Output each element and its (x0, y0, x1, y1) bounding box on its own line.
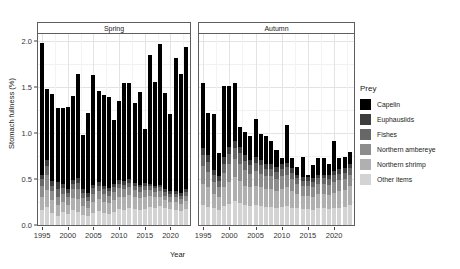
bar-segment (322, 158, 326, 175)
bar-stack (174, 58, 178, 225)
bar-segment (254, 186, 258, 205)
bar-segment (127, 83, 131, 179)
x-axis-tick-mark (282, 227, 283, 230)
bar-stack (348, 152, 352, 225)
bar-segment (81, 215, 85, 225)
bar-stack (56, 107, 60, 225)
bar-segment (280, 169, 284, 176)
x-axis-tick-label: 1995 (195, 231, 212, 240)
bar-segment (280, 176, 284, 189)
bar-segment (163, 208, 167, 225)
bar-segment (66, 197, 70, 204)
grid-line-minor (38, 64, 190, 65)
bar-segment (285, 167, 289, 174)
bar-segment (301, 186, 305, 195)
bar-segment (158, 44, 162, 184)
bar-segment (117, 197, 121, 210)
bar-segment (61, 194, 65, 202)
bar-segment (117, 209, 121, 225)
bar-segment (86, 113, 90, 193)
bar-stack (158, 44, 162, 225)
x-axis-title: Year (0, 250, 355, 259)
bar-segment (148, 196, 152, 207)
y-axis-tick-label: 0.5 (22, 175, 32, 184)
legend: Prey CapelinEuphausiidsFishesNorthern am… (360, 84, 458, 187)
bar-segment (107, 203, 111, 214)
bar-stack (112, 120, 116, 225)
bar-segment (61, 108, 65, 184)
bar-stack (212, 114, 216, 225)
bar-segment (233, 159, 237, 177)
facet-panel-autumn: Autumn (198, 22, 355, 226)
bar-segment (40, 43, 44, 174)
bar-stack (243, 132, 247, 225)
bar-segment (269, 176, 273, 189)
x-axis-title-text: Year (170, 250, 185, 259)
bar-segment (168, 202, 172, 209)
bar-segment (327, 209, 331, 225)
bar-segment (233, 177, 237, 201)
bar-segment (217, 153, 221, 176)
facet-strip-spring: Spring (37, 22, 191, 34)
bar-segment (45, 89, 49, 160)
bar-segment (274, 191, 278, 208)
bar-segment (301, 209, 305, 225)
x-axis-tick-mark (170, 227, 171, 230)
x-axis-tick-label: 1995 (34, 231, 51, 240)
bar-stack (168, 114, 172, 225)
bar-stack (327, 163, 331, 225)
bar-segment (45, 166, 49, 175)
bar-segment (201, 148, 205, 155)
bar-segment (71, 96, 75, 180)
bar-segment (222, 187, 226, 205)
legend-title: Prey (360, 84, 458, 93)
bar-segment (238, 127, 242, 147)
legend-item: Euphausiids (360, 112, 458, 127)
bar-segment (243, 186, 247, 205)
bar-segment (222, 206, 226, 225)
bar-segment (227, 204, 231, 225)
bar-segment (332, 182, 336, 193)
x-axis-autumn: 199520002005201020152020 (198, 227, 355, 241)
bar-segment (153, 197, 157, 207)
x-axis-tick-mark (334, 227, 335, 230)
bar-segment (179, 74, 183, 192)
bar-segment (348, 205, 352, 225)
bar-segment (290, 191, 294, 208)
bar-segment (81, 198, 85, 205)
legend-item-label: Capelin (377, 101, 400, 108)
bar-stack (122, 83, 126, 225)
bar-segment (290, 158, 294, 168)
bar-segment (76, 199, 80, 212)
bar-segment (168, 209, 172, 225)
bar-segment (243, 170, 247, 186)
bar-segment (40, 186, 44, 197)
x-axis-tick-mark (119, 227, 120, 230)
bar-segment (138, 92, 142, 185)
grid-line-major (38, 41, 190, 42)
grid-line-major (38, 225, 190, 226)
bar-segment (50, 200, 54, 213)
bar-segment (184, 209, 188, 225)
bar-segment (107, 214, 111, 225)
y-axis-tick-label: 2.0 (22, 37, 32, 46)
bar-segment (201, 166, 205, 183)
legend-swatch (360, 144, 371, 155)
bar-stack (337, 158, 341, 225)
bar-segment (259, 174, 263, 188)
bar-segment (212, 175, 216, 182)
bar-segment (45, 190, 49, 207)
bar-stack (269, 141, 273, 225)
bar-stack (343, 157, 347, 225)
bar-stack (201, 83, 205, 225)
bar-stack (179, 74, 183, 225)
bar-segment (112, 200, 116, 212)
y-axis-tick-label: 1.0 (22, 129, 32, 138)
x-axis-tick-label: 2020 (162, 231, 179, 240)
legend-item-label: Euphausiids (377, 116, 414, 123)
bar-stack (107, 97, 111, 225)
bar-segment (86, 216, 90, 225)
bar-segment (322, 208, 326, 225)
bar-segment (206, 172, 210, 188)
bar-stack (301, 157, 305, 225)
